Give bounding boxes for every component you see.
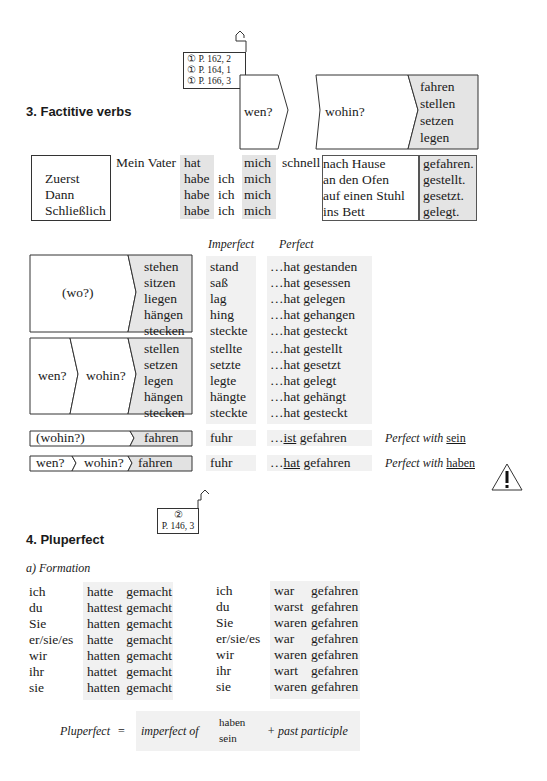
imperfect: stellte (210, 341, 252, 357)
wo-verbs: stehensitzenliegenhängenstecken (144, 259, 184, 339)
participle: gemacht (126, 584, 172, 600)
aux: war (274, 631, 307, 647)
note-haben: Perfect with haben (385, 456, 475, 471)
participle: gefahren (296, 430, 347, 445)
imperfect: steckte (210, 405, 252, 421)
perfect: …hat gesteckt (270, 323, 369, 339)
participle: gemacht (126, 600, 172, 616)
pronoun: ich (29, 584, 73, 600)
participle: gefahren (311, 631, 358, 647)
note-text: Perfect with (385, 431, 446, 445)
pronouns-left: ichduSieer/sie/eswirihrsie (29, 584, 73, 696)
aux: habe (184, 171, 214, 187)
perfect: …hat gelegen (270, 291, 369, 307)
wohin-imperfect: stelltesetztelegtehängtesteckte (206, 338, 256, 424)
aux: warst (274, 599, 307, 615)
aux-haben: haben (219, 714, 245, 730)
aux: waren (274, 647, 307, 663)
pronouns-right: ichduSieer/sie/eswirihrsie (216, 583, 260, 695)
formula-equals: = (118, 724, 125, 739)
object: mich (244, 187, 276, 203)
place-column: nach Hausean den Ofenauf einen Stuhlins … (322, 155, 419, 221)
wohin-perfect: …hat gestellt…hat gesetzt…hat gelegt…hat… (267, 338, 372, 424)
pronoun: ich (218, 171, 235, 187)
pronoun: er/sie/es (29, 632, 73, 648)
imperfect: stand (210, 259, 252, 275)
verb: stecken (144, 323, 184, 339)
verb: legen (420, 129, 455, 146)
formula-rhs: + past participle (267, 724, 348, 739)
perfect: …hat gestanden (270, 259, 369, 275)
aux: habe (184, 187, 214, 203)
verb: stehen (144, 259, 184, 275)
imperfect: hing (210, 307, 252, 323)
question-wo: (wo?) (62, 285, 93, 301)
participle: gefahren (311, 679, 358, 695)
question-wohin: wohin? (84, 455, 124, 471)
pronoun: ihr (216, 663, 260, 679)
aux: hatte (87, 632, 122, 648)
aux: hat (184, 155, 214, 171)
aux: war (274, 583, 307, 599)
object: mich (244, 203, 276, 219)
perfect-hat: …hat gefahren (267, 455, 372, 471)
participle: gemacht (126, 680, 172, 696)
perfect: …hat gesteckt (270, 405, 369, 421)
pronoun: ich (218, 203, 235, 219)
participle: gelegt. (423, 204, 476, 220)
verb: stellen (144, 341, 184, 357)
ich-column: ichichich (218, 155, 235, 219)
question-wohin: (wohin?) (36, 430, 85, 446)
pronoun: wir (29, 648, 73, 664)
adverbs: Zuerst Dann Schließlich (45, 171, 106, 219)
object: mich (244, 171, 276, 187)
aux: waren (274, 615, 307, 631)
subject: Mein Vater (116, 155, 176, 171)
formula-aux: habensein (219, 714, 245, 746)
perfect: …hat gelegt (270, 373, 369, 389)
object: mich (244, 155, 276, 171)
wo-imperfect: standsaßlaghingsteckte (206, 256, 256, 342)
pronoun: wir (216, 647, 260, 663)
place: auf einen Stuhl (323, 188, 418, 204)
place: nach Hause (323, 156, 418, 172)
imperfect: setzte (210, 357, 252, 373)
wohin-verbs: stellensetzenlegenhängenstecken (144, 341, 184, 421)
participle: gefahren (311, 647, 358, 663)
adverb-schnell: schnell (282, 155, 320, 171)
perfect: …hat gesetzt (270, 357, 369, 373)
haben-conjugation: hattehattesthattenhattehattenhattethatte… (83, 582, 173, 700)
pronoun: Sie (29, 616, 73, 632)
question-wen: wen? (38, 368, 66, 384)
pronoun: sie (29, 680, 73, 696)
aux: habe (184, 203, 214, 219)
adverb: Schließlich (45, 203, 106, 219)
verb: setzen (144, 357, 184, 373)
formula-lhs: Pluperfect (60, 724, 110, 739)
verb: legen (144, 373, 184, 389)
aux: hattet (87, 664, 122, 680)
aux: hatte (87, 584, 122, 600)
imperfect: lag (210, 291, 252, 307)
aux: wart (274, 663, 307, 679)
aux-ist: ist (284, 430, 297, 445)
verb: sitzen (144, 275, 184, 291)
participle: gemacht (126, 616, 172, 632)
question-wohin: wohin? (325, 104, 365, 120)
section-title-pluperfect: 4. Pluperfect (26, 532, 104, 547)
participle: gesetzt. (423, 188, 476, 204)
ref-line: P. 146, 3 (161, 521, 195, 532)
ellipsis: … (270, 455, 284, 470)
verb: hängen (144, 389, 184, 405)
perfect-ist: …ist gefahren (267, 430, 372, 446)
cross-reference-box: ② P. 146, 3 (157, 508, 199, 534)
ellipsis: … (270, 430, 284, 445)
note-aux: haben (446, 456, 475, 470)
note-aux: sein (446, 431, 465, 445)
verb: liegen (144, 291, 184, 307)
header-imperfect: Imperfect (208, 237, 254, 252)
participle: gemacht (126, 648, 172, 664)
imperfect-fuhr: fuhr (206, 430, 256, 446)
participle: gefahren (311, 583, 358, 599)
participle: gefahren (311, 615, 358, 631)
